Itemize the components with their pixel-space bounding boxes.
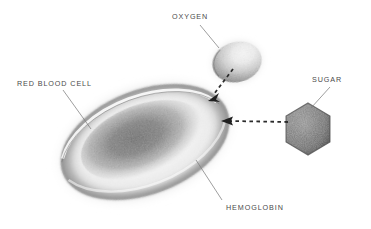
illustration-artwork [0,0,371,229]
diagram-canvas: OXYGEN RED BLOOD CELL SUGAR HEMOGLOBIN [0,0,371,229]
sugar-molecule-graphic [286,103,330,155]
oxygen-leader [200,25,219,48]
label-sugar: SUGAR [312,75,342,84]
sugar-to-cell-arrow [221,117,288,126]
label-hemoglobin: HEMOGLOBIN [226,203,284,212]
label-red-blood-cell: RED BLOOD CELL [17,79,92,88]
label-oxygen: OXYGEN [172,12,208,21]
sugar-leader [311,87,330,108]
